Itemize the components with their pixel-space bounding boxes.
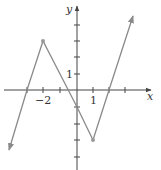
tick-label-y1: 1 (66, 68, 73, 81)
tick-label-neg2: −2 (35, 94, 51, 107)
function-curve (9, 16, 133, 150)
tick-label-x1: 1 (90, 94, 97, 107)
point-min (91, 138, 95, 142)
x-axis-label: x (147, 90, 154, 103)
point-max (41, 39, 45, 43)
graph: y x −2 1 1 (0, 0, 161, 170)
y-axis-label: y (65, 3, 73, 16)
